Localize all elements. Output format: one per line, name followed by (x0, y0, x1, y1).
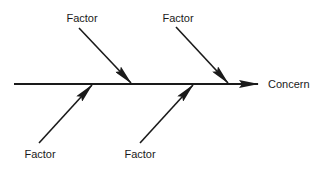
factor-label-top-right: Factor (162, 12, 194, 24)
factor-arrow-top-right (176, 27, 228, 83)
factor-arrow-bottom-left (39, 85, 92, 143)
fishbone-diagram: Factor Factor Factor Factor Concern (0, 0, 325, 169)
factor-label-top-left: Factor (66, 12, 98, 24)
factor-label-bottom-right: Factor (124, 148, 156, 160)
factor-label-bottom-left: Factor (24, 148, 56, 160)
effect-label: Concern (268, 78, 310, 90)
diagram-svg: Factor Factor Factor Factor Concern (0, 0, 325, 169)
factor-arrow-top-left (79, 28, 131, 83)
factor-arrow-bottom-right (140, 85, 193, 143)
